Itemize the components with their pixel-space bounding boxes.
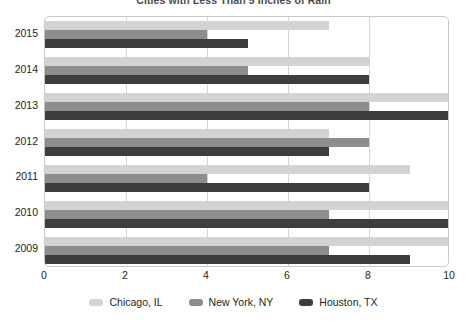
bar-chicago-2014 [45,57,369,66]
year-label-2015: 2015 [0,27,38,39]
bar-chicago-2013 [45,93,449,102]
bar-newyork-2009 [45,246,329,255]
year-label-2010: 2010 [0,206,38,218]
bar-houston-2013 [45,111,449,120]
bar-group-2010 [45,196,448,232]
legend-item-chicago[interactable]: Chicago, IL [89,296,162,308]
bar-chicago-2012 [45,129,329,138]
bar-newyork-2014 [45,66,248,75]
legend-item-newyork[interactable]: New York, NY [189,296,274,308]
bar-newyork-2015 [45,30,207,39]
x-tick-label-2: 2 [122,269,128,281]
bar-chart: Cities with Less Than 5 Inches of Rain C… [0,0,467,326]
legend-item-label: Houston, TX [319,296,377,308]
legend-item-label: Chicago, IL [109,296,162,308]
bar-group-2012 [45,125,448,161]
year-label-2011: 2011 [0,170,38,182]
year-label-2012: 2012 [0,135,38,147]
x-tick-label-4: 4 [203,269,209,281]
chart-title: Cities with Less Than 5 Inches of Rain [0,0,467,5]
year-label-2013: 2013 [0,99,38,111]
bar-group-2011 [45,160,448,196]
x-tick-label-10: 10 [443,269,455,281]
bar-chicago-2015 [45,21,329,30]
legend-item-houston[interactable]: Houston, TX [299,296,377,308]
bar-chicago-2009 [45,237,449,246]
x-tick-label-6: 6 [284,269,290,281]
bar-newyork-2010 [45,210,329,219]
bar-houston-2012 [45,147,329,156]
year-label-2009: 2009 [0,242,38,254]
bar-group-2013 [45,89,448,125]
bar-group-2015 [45,17,448,53]
bar-chicago-2011 [45,165,410,174]
bar-group-2014 [45,53,448,89]
plot-area [44,16,449,267]
bar-group-2009 [45,232,448,267]
bar-houston-2014 [45,75,369,84]
bar-houston-2011 [45,183,369,192]
legend-swatch-icon-chicago [89,299,103,306]
bar-houston-2015 [45,39,248,48]
bar-newyork-2013 [45,102,369,111]
bar-houston-2009 [45,255,410,264]
bar-chicago-2010 [45,201,449,210]
legend-item-label: New York, NY [209,296,274,308]
chart-legend: Chicago, ILNew York, NYHouston, TX [0,296,467,308]
bar-newyork-2011 [45,174,207,183]
bar-houston-2010 [45,219,449,228]
x-tick-label-0: 0 [41,269,47,281]
bar-newyork-2012 [45,138,369,147]
legend-swatch-icon-houston [299,299,313,306]
x-tick-label-8: 8 [365,269,371,281]
legend-swatch-icon-newyork [189,299,203,306]
year-label-2014: 2014 [0,63,38,75]
